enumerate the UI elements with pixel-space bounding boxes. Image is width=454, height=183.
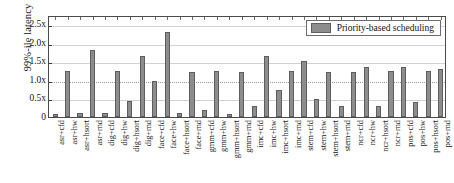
x-axis-tick-label: dig+hw <box>120 120 129 145</box>
bar <box>426 71 431 117</box>
bar <box>165 32 170 117</box>
bar <box>438 69 443 117</box>
x-axis-tick-label: stem+hw <box>319 120 328 150</box>
x-axis-tick-label: imc+cfd <box>256 120 265 148</box>
bar <box>376 106 381 117</box>
bar <box>289 71 294 117</box>
x-axis-tick-label: face+rnd <box>194 120 203 149</box>
x-axis-tick-label: imc+rnd <box>294 120 303 148</box>
x-axis-tick-label: pos+hw <box>418 120 427 146</box>
x-axis-tick-label: face+cfd <box>157 120 166 149</box>
x-axis-tick-label: gmm+rnd <box>244 120 253 153</box>
y-axis-tick-label: 1.0x <box>29 75 46 85</box>
x-axis-tick-label: asr+hw <box>70 120 79 144</box>
y-axis-tick-labels: 00.5x1.0x1.5x2.0x2.5x <box>16 14 46 118</box>
bar <box>252 106 257 117</box>
bar <box>102 113 107 117</box>
x-axis-tick-label: pos+rnd <box>443 120 452 147</box>
bar <box>227 114 232 117</box>
x-axis-tick-label: face+hsort <box>182 120 191 155</box>
legend-swatch-priority-based-scheduling <box>311 23 331 33</box>
x-axis-tick-label: stem+rnd <box>343 120 352 151</box>
bar <box>214 71 219 117</box>
legend-label-priority-based-scheduling: Priority-based scheduling <box>337 23 434 33</box>
x-axis-tick-label: imc+hsort <box>281 120 290 154</box>
bar <box>351 72 356 117</box>
bar <box>339 106 344 117</box>
x-axis-tick-label: gmm+hsort <box>232 120 241 158</box>
y-axis-tick-label: 2.0x <box>29 38 46 48</box>
x-axis-tick-label: face+hw <box>169 120 178 149</box>
bar <box>401 67 406 117</box>
x-axis-tick-label: dig+rnd <box>144 120 153 146</box>
x-axis-tick-label: ncr+hw <box>368 120 377 145</box>
bar <box>140 56 145 117</box>
bar <box>264 56 269 117</box>
x-axis-tick-labels: asr+cfdasr+hwasr+hsortasr+rnddig+cfddig+… <box>48 120 446 182</box>
bar <box>364 67 369 117</box>
x-axis-tick-label: asr+rnd <box>95 120 104 145</box>
plot-area: Priority-based scheduling <box>48 16 446 118</box>
x-axis-tick-label: pos+hsort <box>431 120 440 153</box>
x-axis-tick-label: pos+cfd <box>406 120 415 147</box>
bar <box>388 71 393 117</box>
bar <box>77 113 82 117</box>
bar <box>413 102 418 117</box>
bar <box>53 114 58 117</box>
bar <box>152 81 157 117</box>
y-axis-tick-label: 1.5x <box>29 56 46 66</box>
x-axis-tick-label: stem+hsort <box>331 120 340 157</box>
bar <box>90 50 95 117</box>
y-axis-tick-label: 2.5x <box>29 19 46 29</box>
x-axis-tick-label: gmm+hw <box>219 120 228 152</box>
bar <box>314 99 319 117</box>
bar <box>177 113 182 117</box>
bar <box>239 72 244 117</box>
bar <box>127 101 132 117</box>
x-axis-tick-label: stem+cfd <box>306 120 315 151</box>
legend: Priority-based scheduling <box>306 20 441 36</box>
bar <box>65 71 70 117</box>
x-axis-tick-label: asr+hsort <box>82 120 91 151</box>
bar <box>326 72 331 117</box>
y-axis-tick-label: 0.5x <box>29 93 46 103</box>
bar <box>301 61 306 117</box>
bar-chart-figure: 99%-ile latency 00.5x1.0x1.5x2.0x2.5x Pr… <box>0 0 454 183</box>
x-axis-tick-label: dig+hsort <box>132 120 141 152</box>
x-axis-tick-label: ncr+hsort <box>381 120 390 152</box>
x-axis-tick-label: gmm+cfd <box>207 120 216 152</box>
bar <box>189 72 194 117</box>
x-axis-tick-label: imc+hw <box>269 120 278 147</box>
bar <box>276 90 281 117</box>
bar <box>115 71 120 117</box>
x-axis-tick-label: asr+cfd <box>57 120 66 145</box>
x-axis-tick-label: dig+cfd <box>107 120 116 146</box>
x-axis-tick-label: ncr+cfd <box>356 120 365 146</box>
bar <box>202 110 207 117</box>
x-axis-tick-label: ncr+rnd <box>393 120 402 146</box>
y-axis-tick-label: 0 <box>41 112 46 122</box>
